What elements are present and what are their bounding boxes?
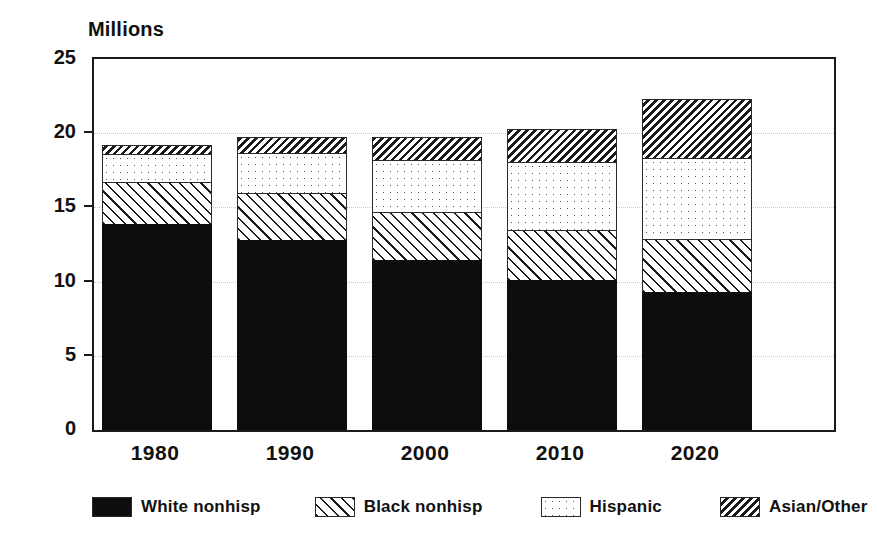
bar-segment[interactable] bbox=[237, 240, 347, 430]
x-axis-tick-label: 2020 bbox=[625, 441, 765, 465]
legend-item-label: White nonhisp bbox=[141, 497, 261, 517]
stacked-bar[interactable] bbox=[372, 137, 482, 430]
bar-segment[interactable] bbox=[507, 162, 617, 230]
bar-segment[interactable] bbox=[642, 158, 752, 238]
bar-segment[interactable] bbox=[237, 137, 347, 153]
y-axis-tick-mark bbox=[84, 131, 92, 133]
x-axis-tick-label: 2010 bbox=[490, 441, 630, 465]
bar-segment[interactable] bbox=[372, 260, 482, 430]
legend-item-label: Black nonhisp bbox=[364, 497, 483, 517]
bar-segment[interactable] bbox=[102, 182, 212, 224]
x-axis-tick-label: 2000 bbox=[355, 441, 495, 465]
chart-figure: Millions 0510152025 19801990200020102020… bbox=[0, 0, 877, 555]
x-axis-tick-label: 1980 bbox=[85, 441, 225, 465]
y-axis-unit-caption: Millions bbox=[88, 18, 164, 41]
plot-area bbox=[92, 57, 836, 432]
legend-item[interactable]: Asian/Other bbox=[720, 497, 868, 517]
bar-segment[interactable] bbox=[507, 129, 617, 162]
bar-segment[interactable] bbox=[102, 145, 212, 154]
dotted-swatch bbox=[541, 497, 581, 517]
legend-item[interactable]: White nonhisp bbox=[92, 497, 261, 517]
bar-segment[interactable] bbox=[507, 230, 617, 280]
y-axis-tick-mark bbox=[84, 205, 92, 207]
legend-item[interactable]: Black nonhisp bbox=[315, 497, 483, 517]
stacked-bar[interactable] bbox=[642, 99, 752, 430]
y-axis-tick-label: 10 bbox=[30, 268, 76, 291]
bar-segment[interactable] bbox=[237, 193, 347, 240]
bar-segment[interactable] bbox=[507, 280, 617, 430]
bar-segment[interactable] bbox=[372, 160, 482, 212]
bar-segment[interactable] bbox=[642, 99, 752, 158]
chart-legend: White nonhispBlack nonhispHispanicAsian/… bbox=[92, 497, 852, 517]
y-axis-tick-label: 25 bbox=[30, 46, 76, 69]
legend-item[interactable]: Hispanic bbox=[541, 497, 662, 517]
bar-segment[interactable] bbox=[237, 153, 347, 193]
solid-black-swatch bbox=[92, 497, 132, 517]
y-axis-tick-label: 20 bbox=[30, 120, 76, 143]
bar-segment[interactable] bbox=[642, 292, 752, 430]
bar-segment[interactable] bbox=[102, 154, 212, 182]
stacked-bar[interactable] bbox=[507, 129, 617, 430]
bar-segment[interactable] bbox=[102, 224, 212, 430]
stacked-bar[interactable] bbox=[237, 137, 347, 430]
y-axis-tick-label: 15 bbox=[30, 194, 76, 217]
legend-item-label: Hispanic bbox=[590, 497, 662, 517]
bar-segment[interactable] bbox=[642, 239, 752, 292]
dense-hatch-swatch bbox=[720, 497, 760, 517]
legend-item-label: Asian/Other bbox=[769, 497, 868, 517]
y-axis-tick-label: 5 bbox=[30, 342, 76, 365]
stacked-bar[interactable] bbox=[102, 145, 212, 430]
y-axis-tick-mark bbox=[84, 280, 92, 282]
y-axis-tick-label: 0 bbox=[30, 417, 76, 440]
bar-segment[interactable] bbox=[372, 212, 482, 260]
diagonal-hatch-swatch bbox=[315, 497, 355, 517]
bar-segment[interactable] bbox=[372, 137, 482, 160]
y-axis-tick-mark bbox=[84, 354, 92, 356]
x-axis-tick-label: 1990 bbox=[220, 441, 360, 465]
